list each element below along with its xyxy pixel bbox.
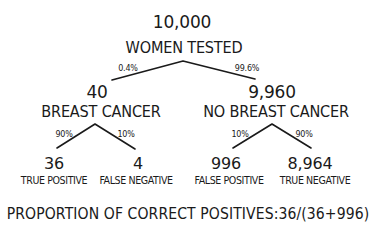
cancer-count: 40 — [86, 84, 107, 101]
false-positive-label: FALSE POSITIVE — [195, 175, 264, 186]
no-cancer-label: NO BREAST CANCER — [203, 103, 349, 119]
true-positive-count: 36 — [44, 156, 64, 172]
true-positive-label: TRUE POSITIVE — [21, 175, 87, 186]
false-negative-label: FALSE NEGATIVE — [99, 175, 172, 186]
false-positive-pct: 10% — [231, 131, 248, 139]
false-negative-pct: 10% — [117, 131, 134, 139]
no-cancer-count: 9,960 — [248, 84, 296, 101]
root-count: 10,000 — [153, 14, 211, 31]
no-cancer-branch-pct: 99.6% — [235, 65, 259, 73]
root-label: WOMEN TESTED — [126, 39, 243, 55]
false-positive-count: 996 — [211, 156, 241, 172]
correct-positives-formula: PROPORTION OF CORRECT POSITIVES:36/(36+9… — [7, 205, 370, 221]
cancer-branch-pct: 0.4% — [118, 65, 138, 73]
false-negative-count: 4 — [133, 156, 143, 172]
true-negative-pct: 90% — [295, 131, 312, 139]
cancer-label: BREAST CANCER — [41, 103, 160, 119]
true-positive-pct: 90% — [55, 131, 72, 139]
true-negative-label: TRUE NEGATIVE — [280, 175, 351, 186]
true-negative-count: 8,964 — [288, 156, 333, 172]
